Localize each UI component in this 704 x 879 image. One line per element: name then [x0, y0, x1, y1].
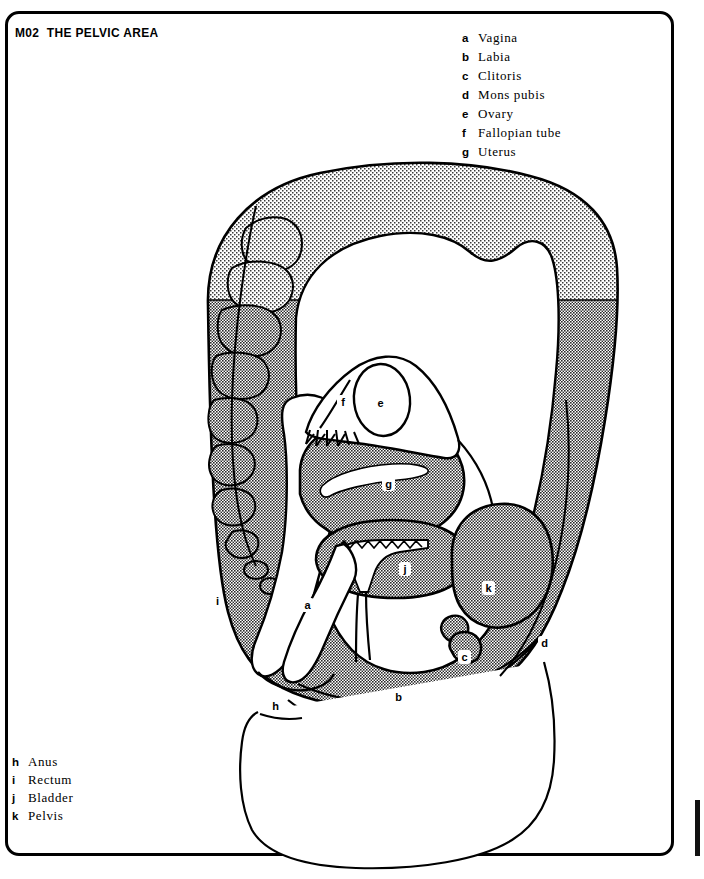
page-title: M02 THE PELVIC AREA — [15, 25, 159, 40]
legend-label: Bladder — [28, 790, 73, 805]
legend-label: Rectum — [28, 772, 72, 787]
legend-item-fallopian-tube: fFallopian tube — [462, 122, 561, 141]
legend-label: Anus — [28, 754, 58, 769]
legend-label: Uterus — [478, 144, 516, 159]
legend-item-bladder: jBladder — [12, 788, 73, 806]
legend-item-uterus: gUterus — [462, 141, 561, 160]
legend-key: g — [462, 143, 478, 162]
legend-label: Fallopian tube — [478, 125, 561, 140]
page-border — [5, 11, 674, 856]
legend-key: h — [12, 753, 28, 771]
legend-label: Labia — [478, 49, 511, 64]
legend-key: k — [12, 807, 28, 825]
legend-key: j — [12, 789, 28, 807]
legend-item-rectum: iRectum — [12, 770, 73, 788]
legend-label: Clitoris — [478, 68, 522, 83]
legend-key: i — [12, 771, 28, 789]
legend-label: Vagina — [478, 30, 518, 45]
legend-item-mons-pubis: dMons pubis — [462, 84, 561, 103]
legend-item-vagina: aVagina — [462, 27, 561, 46]
legend-item-labia: bLabia — [462, 46, 561, 65]
page-edge-tab-marker — [695, 800, 700, 856]
legend-item-ovary: eOvary — [462, 103, 561, 122]
legend-item-pelvis: kPelvis — [12, 806, 73, 824]
legend-label: Pelvis — [28, 808, 63, 823]
legend-label: Ovary — [478, 106, 514, 121]
legend-top: aVagina bLabia cClitoris dMons pubis eOv… — [462, 27, 561, 160]
legend-item-anus: hAnus — [12, 752, 73, 770]
legend-item-clitoris: cClitoris — [462, 65, 561, 84]
legend-bottom: hAnus iRectum jBladder kPelvis — [12, 752, 73, 824]
legend-label: Mons pubis — [478, 87, 545, 102]
